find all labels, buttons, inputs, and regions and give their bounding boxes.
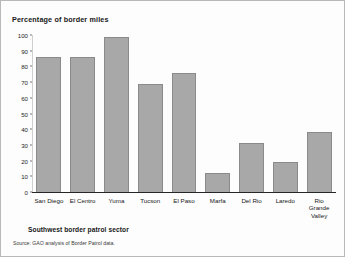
bar[interactable] [273, 162, 298, 192]
bar[interactable] [239, 143, 264, 192]
y-axis-tick-label: 80 [21, 63, 28, 70]
y-axis-tick-mark [30, 82, 33, 83]
bar-slot [70, 35, 95, 192]
chart-title: Percentage of border miles [12, 15, 109, 24]
bar[interactable] [205, 173, 230, 192]
y-axis-tick-label: 0 [25, 189, 28, 196]
y-axis-tick-mark [30, 66, 33, 67]
y-axis-tick-label: 20 [21, 157, 28, 164]
bar[interactable] [70, 57, 95, 192]
y-axis-tick-mark [30, 160, 33, 161]
bar-slot [307, 35, 332, 192]
y-axis-tick-mark [30, 129, 33, 130]
y-axis-tick-label: 50 [21, 110, 28, 117]
x-axis-baseline [32, 192, 336, 193]
bar-slot [273, 35, 298, 192]
plot-area: 0102030405060708090100 [32, 35, 336, 192]
x-axis-tick-label: Rio Grande Valley [298, 197, 340, 219]
y-axis-tick-mark [30, 97, 33, 98]
y-axis-tick-mark [30, 144, 33, 145]
y-axis-tick-label: 10 [21, 173, 28, 180]
y-axis-tick-label: 60 [21, 94, 28, 101]
bar[interactable] [104, 37, 129, 192]
bar[interactable] [36, 57, 61, 192]
chart-figure: Percentage of border miles 0102030405060… [0, 0, 345, 257]
source-note: Source: GAO analysis of Border Patrol da… [13, 240, 115, 246]
bar[interactable] [172, 73, 197, 192]
y-axis-tick-mark [30, 35, 33, 36]
bar[interactable] [138, 84, 163, 192]
y-axis-tick-label: 90 [21, 47, 28, 54]
bar-slot [205, 35, 230, 192]
bar-slot [138, 35, 163, 192]
bar-slot [104, 35, 129, 192]
bar-slot [36, 35, 61, 192]
y-axis-tick-mark [30, 113, 33, 114]
x-axis-title: Southwest border patrol sector [28, 226, 129, 233]
y-axis-tick-label: 40 [21, 126, 28, 133]
bar-slot [172, 35, 197, 192]
y-axis-tick-label: 100 [18, 32, 28, 39]
bar[interactable] [307, 132, 332, 192]
y-axis-tick-label: 70 [21, 79, 28, 86]
y-axis-tick-mark [30, 176, 33, 177]
y-axis-tick-mark [30, 50, 33, 51]
y-axis-tick-label: 30 [21, 141, 28, 148]
bar-slot [239, 35, 264, 192]
